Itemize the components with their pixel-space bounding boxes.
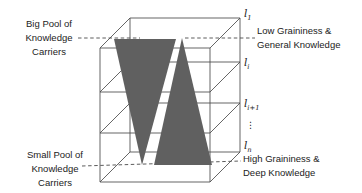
level-label-li: li [244,56,250,71]
small-pool-label-line-2: Knowledge [31,163,78,174]
small-pool-label-line-1: Small Pool of [27,149,83,160]
low-graininess-label-line-1: Low Graininess & [257,25,332,36]
level-ellipsis-dots: ⋮ [246,120,255,130]
level-label-l1: l1 [244,7,252,22]
big-pool-label-line-3: Carriers [32,46,66,57]
level-li-sub: i [247,63,249,71]
high-graininess-label-line-2: Deep Knowledge [243,167,315,178]
level-ln-sub: n [247,146,251,154]
level-label-ln: ln [244,139,252,154]
low-graininess-label-line-2: General Knowledge [257,39,340,50]
level-label-li1: li+1 [244,97,260,112]
diagram-canvas: Big Pool of Knowledge Carriers Small Poo… [0,0,362,193]
knowledge-granularity-diagram: Big Pool of Knowledge Carriers Small Poo… [0,0,362,193]
level-li1-sub: i+1 [247,104,259,112]
high-graininess-label-line-1: High Graininess & [243,153,320,164]
level-l1-sub: 1 [247,14,251,22]
small-pool-label-line-3: Carriers [38,177,72,188]
big-pool-label-line-2: Knowledge [25,32,72,43]
big-pool-label-line-1: Big Pool of [26,18,72,29]
